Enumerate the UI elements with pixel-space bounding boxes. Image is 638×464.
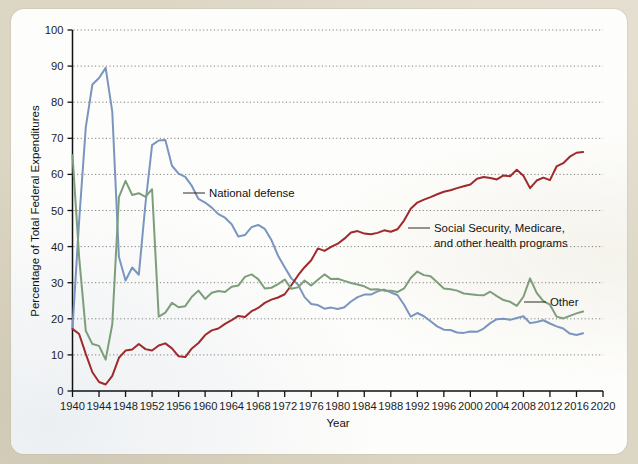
series-line-1 (73, 152, 584, 384)
annotation-other: Other (524, 296, 579, 308)
y-tick-label-10: 10 (51, 349, 63, 361)
x-tick-label-1960: 1960 (193, 400, 218, 412)
x-tick-label-1984: 1984 (352, 400, 377, 412)
x-tick-label-1980: 1980 (325, 400, 350, 412)
y-tick-label-40: 40 (51, 241, 63, 253)
series-label-other: Other (550, 296, 579, 308)
series-label-social-security-line2: and other health programs (434, 237, 568, 249)
x-tick-label-1952: 1952 (140, 400, 165, 412)
series-label-social-security-line1: Social Security, Medicare, (434, 222, 565, 234)
x-tick-label-1976: 1976 (299, 400, 324, 412)
x-tick-label-1968: 1968 (246, 400, 271, 412)
y-tick-label-0: 0 (57, 385, 63, 397)
y-tick-label-90: 90 (51, 60, 63, 72)
y-tick-label-50: 50 (51, 205, 63, 217)
y-tick-label-60: 60 (51, 168, 63, 180)
y-tick-label-70: 70 (51, 132, 63, 144)
x-tick-label-2004: 2004 (484, 400, 509, 412)
y-tick-label-30: 30 (51, 277, 63, 289)
x-tick-label-1956: 1956 (166, 400, 191, 412)
x-tick-label-1944: 1944 (87, 400, 112, 412)
x-tick-label-2020: 2020 (591, 400, 616, 412)
y-tick-label-100: 100 (45, 24, 64, 36)
x-tick-label-1972: 1972 (272, 400, 297, 412)
series-line-0 (73, 68, 584, 335)
x-tick-label-2012: 2012 (538, 400, 563, 412)
y-tick-label-80: 80 (51, 96, 63, 108)
series-label-national-defense: National defense (209, 187, 295, 199)
figure-root: 0102030405060708090100 19401944194819521… (0, 0, 638, 464)
x-tick-label-2016: 2016 (564, 400, 589, 412)
x-tick-label-1964: 1964 (219, 400, 244, 412)
series-line-2 (73, 155, 584, 359)
annotation-social-security: Social Security, Medicare, and other hea… (408, 222, 568, 249)
x-tick-label-1992: 1992 (405, 400, 430, 412)
x-axis-ticks: 1940194419481952195619601964196819721976… (60, 391, 615, 412)
x-tick-label-1948: 1948 (113, 400, 138, 412)
line-chart: 0102030405060708090100 19401944194819521… (0, 0, 638, 464)
x-tick-label-1940: 1940 (60, 400, 85, 412)
y-axis-ticks: 0102030405060708090100 (45, 24, 73, 397)
x-tick-label-1988: 1988 (378, 400, 403, 412)
y-axis-title: Percentage of Total Federal Expenditures (29, 105, 41, 317)
x-tick-label-1996: 1996 (431, 400, 456, 412)
x-tick-label-2008: 2008 (511, 400, 536, 412)
annotation-national-defense: National defense (183, 187, 295, 199)
y-tick-label-20: 20 (51, 313, 63, 325)
x-axis-title: Year (326, 417, 349, 429)
x-tick-label-2000: 2000 (458, 400, 483, 412)
